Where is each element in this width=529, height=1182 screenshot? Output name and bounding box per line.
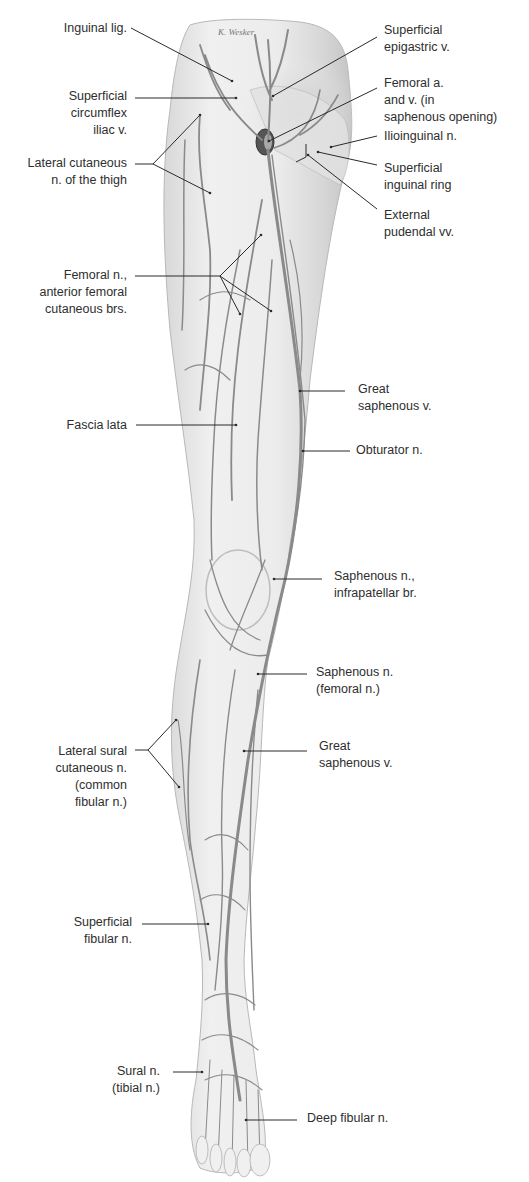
leader-endpoint	[257, 673, 260, 676]
label-lateral-sural-cutaneous-n: Lateral sural cutaneous n. (common fibul…	[55, 743, 127, 811]
leader-endpoint	[243, 750, 246, 753]
leader-endpoint	[245, 1119, 248, 1122]
label-superficial-inguinal-ring: Superficial inguinal ring	[384, 160, 451, 194]
leader-endpoint	[199, 114, 202, 117]
label-great-saphenous-v-lower: Great saphenous v.	[319, 738, 392, 772]
leader-endpoint	[299, 390, 302, 393]
leader-endpoint	[272, 95, 275, 98]
leader-endpoint	[260, 234, 263, 237]
leader-endpoint	[207, 923, 210, 926]
label-fascia-lata: Fascia lata	[67, 417, 127, 434]
leader-endpoint	[239, 313, 242, 316]
leg-outline	[164, 19, 352, 1173]
leader-endpoint	[317, 151, 320, 154]
leader-endpoint	[201, 1071, 204, 1074]
leader-endpoint	[302, 450, 305, 453]
label-lateral-cutaneous-n-thigh: Lateral cutaneous n. of the thigh	[28, 155, 127, 189]
label-superficial-circumflex-iliac-v: Superficial circumflex iliac v.	[69, 88, 127, 139]
label-external-pudendal-vv: External pudendal vv.	[384, 207, 454, 241]
label-superficial-epigastric-v: Superficial epigastric v.	[384, 22, 450, 56]
label-great-saphenous-v-upper: Great saphenous v.	[358, 381, 431, 415]
leader-endpoint	[209, 192, 212, 195]
leader-endpoint	[235, 424, 238, 427]
label-ilioinguinal-n: Ilioinguinal n.	[384, 128, 457, 145]
leader-endpoint	[330, 146, 333, 149]
leader-endpoint	[235, 97, 238, 100]
label-sural-n: Sural n. (tibial n.)	[112, 1063, 160, 1097]
label-femoral-n-anterior-cutaneous: Femoral n., anterior femoral cutaneous b…	[39, 267, 127, 318]
leader-endpoint	[268, 140, 271, 143]
leader-endpoint	[231, 80, 234, 83]
artist-signature: K. Wesker	[217, 27, 255, 37]
leader-endpoint	[273, 578, 276, 581]
label-deep-fibular-n: Deep fibular n.	[307, 1110, 388, 1127]
label-inguinal-lig: Inguinal lig.	[64, 20, 127, 37]
label-femoral-a-and-v: Femoral a. and v. (in saphenous opening)	[384, 75, 497, 126]
label-obturator-n: Obturator n.	[356, 442, 423, 459]
leader-endpoint	[178, 786, 181, 789]
label-saphenous-n-femoral: Saphenous n. (femoral n.)	[316, 664, 393, 698]
anatomy-figure: K. Wesker Inguinal lig.Superficial circu…	[0, 0, 529, 1182]
label-saphenous-n-infrapatellar: Saphenous n., infrapatellar br.	[334, 568, 417, 602]
leader-endpoint	[307, 154, 310, 157]
label-superficial-fibular-n: Superficial fibular n.	[74, 914, 132, 948]
leader-endpoint	[175, 719, 178, 722]
leader-endpoint	[270, 310, 273, 313]
